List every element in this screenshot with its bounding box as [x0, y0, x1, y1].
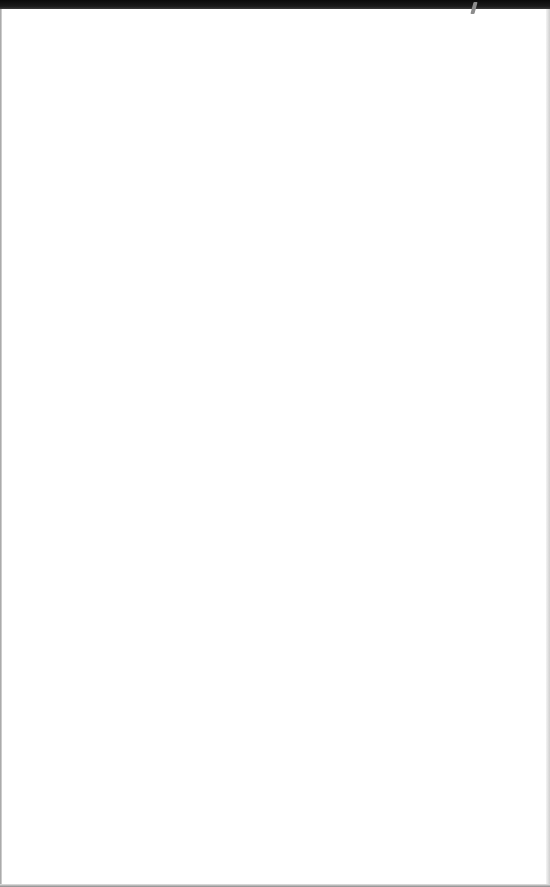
scan-right-edge — [546, 9, 550, 887]
scan-top-edge — [0, 0, 550, 9]
blank-page — [2, 9, 546, 884]
